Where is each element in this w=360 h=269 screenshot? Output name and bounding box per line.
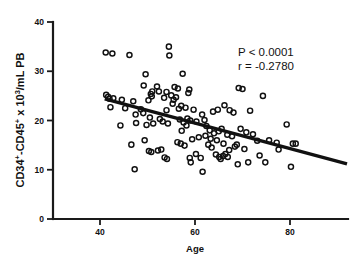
ylabel-seg3: x 10 (14, 94, 26, 118)
data-point (134, 120, 139, 125)
data-point (193, 151, 198, 156)
scatter-plot-figure: 010203040406080 Age CD34+-CD45+ x 103/mL… (0, 0, 360, 269)
data-point (214, 138, 219, 143)
x-axis-title: Age (186, 243, 204, 254)
data-point (129, 142, 134, 147)
data-point (235, 162, 240, 167)
data-point (143, 72, 148, 77)
y-axis-title: CD34+-CD45+ x 103/mL PB (13, 52, 27, 187)
data-point (166, 44, 171, 49)
y-tick-label-10: 10 (35, 165, 45, 175)
data-point (164, 89, 169, 94)
data-point (151, 121, 156, 126)
ylabel-seg4: /mL PB (14, 52, 26, 90)
data-point (156, 89, 161, 94)
data-point (198, 155, 203, 160)
y-tick-label-0: 0 (39, 214, 44, 224)
data-point (203, 133, 208, 138)
data-point (155, 148, 160, 153)
data-point (144, 122, 149, 127)
data-point (208, 136, 213, 141)
data-point (141, 83, 146, 88)
data-point (221, 141, 226, 146)
data-point (103, 50, 108, 55)
data-point (200, 112, 205, 117)
data-point (167, 53, 172, 58)
data-point (142, 138, 147, 143)
data-point (209, 145, 214, 150)
data-point (288, 164, 293, 169)
r-value-annotation: r = -0.2780 (238, 60, 294, 72)
data-point (118, 123, 123, 128)
plot-canvas: 010203040406080 Age CD34+-CD45+ x 103/mL… (0, 0, 360, 269)
data-point (146, 98, 151, 103)
data-point (242, 147, 247, 152)
x-tick-label-60: 60 (190, 227, 200, 237)
svg-text:CD34+-CD45+ x 103/mL PB: CD34+-CD45+ x 103/mL PB (13, 52, 27, 187)
ylabel-seg1: CD34 (14, 159, 26, 188)
data-point (132, 167, 137, 172)
data-point (110, 51, 115, 56)
data-point (191, 107, 196, 112)
data-point (190, 137, 195, 142)
data-point (227, 148, 232, 153)
data-point (263, 160, 268, 165)
ylabel-seg2: -CD45 (14, 123, 26, 155)
data-point (215, 107, 220, 112)
regression-trendline (105, 99, 347, 164)
data-point (238, 126, 243, 131)
data-point (246, 160, 251, 165)
data-point (250, 132, 255, 137)
data-point (147, 115, 152, 120)
data-point (248, 108, 253, 113)
data-point (260, 93, 265, 98)
data-point (133, 112, 138, 117)
data-point (196, 135, 201, 140)
trendline-segment (105, 99, 347, 164)
data-point (164, 108, 169, 113)
data-point (222, 103, 227, 108)
data-point (165, 121, 170, 126)
data-point (131, 99, 136, 104)
data-point (127, 52, 132, 57)
y-tick-label-30: 30 (35, 66, 45, 76)
axes (53, 22, 348, 219)
data-point (179, 128, 184, 133)
y-tick-label-20: 20 (35, 116, 45, 126)
data-point (202, 117, 207, 122)
data-point (180, 71, 185, 76)
p-value-annotation: P < 0.0001 (238, 46, 294, 58)
data-point (108, 105, 113, 110)
data-point (162, 95, 167, 100)
x-tick-label-80: 80 (285, 227, 295, 237)
statistics-annotation: P < 0.0001 r = -0.2780 (238, 46, 294, 72)
y-tick-label-40: 40 (35, 17, 45, 27)
data-point (200, 169, 205, 174)
x-tick-label-40: 40 (95, 227, 105, 237)
data-point (244, 130, 249, 135)
data-point (276, 147, 281, 152)
data-point (257, 153, 262, 158)
data-point (284, 122, 289, 127)
